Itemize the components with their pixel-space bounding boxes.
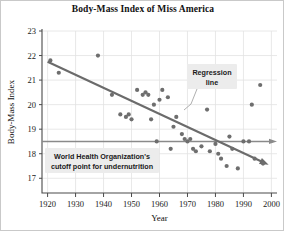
data-point: [129, 117, 133, 121]
y-tick-label: 21: [28, 75, 37, 85]
y-tick-label: 18: [28, 149, 37, 159]
data-point: [225, 164, 229, 168]
data-point: [205, 107, 209, 111]
data-point: [199, 144, 203, 148]
data-point: [213, 142, 217, 146]
y-tick-label: 17: [28, 173, 37, 183]
y-tick-label: 20: [28, 100, 37, 110]
data-point: [250, 103, 254, 107]
data-point: [230, 147, 234, 151]
regression-label-leader-line: [184, 89, 197, 110]
data-point: [180, 132, 184, 136]
regression-label-line2: line: [206, 78, 218, 87]
data-point: [118, 112, 122, 116]
data-point: [155, 139, 159, 143]
data-point: [96, 53, 100, 57]
data-point: [174, 115, 178, 119]
data-point: [127, 112, 131, 116]
data-point: [169, 147, 173, 151]
who-reference-line-arrowhead: [269, 139, 277, 144]
data-point: [166, 95, 170, 99]
data-point: [160, 88, 164, 92]
data-point: [110, 93, 114, 97]
y-axis-title: Body-Mass Index: [6, 79, 16, 144]
who-label-line1: World Health Organization's: [54, 152, 150, 161]
x-tick-label: 1950: [123, 199, 140, 209]
data-point: [247, 139, 251, 143]
x-tick-label: 1970: [179, 199, 196, 209]
x-tick-label: 1990: [235, 199, 252, 209]
x-tick-label: 2000: [263, 199, 280, 209]
data-point: [146, 93, 150, 97]
data-point: [149, 117, 153, 121]
data-point: [216, 152, 220, 156]
data-point: [194, 149, 198, 153]
y-tick-label: 19: [28, 124, 37, 134]
x-tick-label: 1940: [95, 199, 112, 209]
data-point: [48, 58, 52, 62]
data-point: [227, 134, 231, 138]
data-point: [208, 149, 212, 153]
scatter-plot: 1718192021222319201930194019501960197019…: [1, 1, 284, 231]
data-point: [253, 157, 257, 161]
who-label-line2: cutoff point for undernutrition: [51, 162, 153, 171]
x-tick-label: 1930: [67, 199, 84, 209]
data-point: [241, 139, 245, 143]
data-point: [258, 83, 262, 87]
chart-figure: Body-Mass Index of Miss America 17181920…: [0, 0, 284, 231]
data-point: [261, 161, 265, 165]
y-tick-label: 23: [28, 26, 37, 36]
data-point: [236, 166, 240, 170]
data-point: [135, 88, 139, 92]
data-point: [57, 71, 61, 75]
data-point: [188, 137, 192, 141]
x-tick-label: 1960: [151, 199, 168, 209]
regression-label-line1: Regression: [192, 68, 231, 77]
x-axis-title: Year: [151, 213, 168, 223]
data-point: [152, 103, 156, 107]
data-point: [157, 98, 161, 102]
data-point: [171, 125, 175, 129]
x-tick-label: 1980: [207, 199, 224, 209]
data-point: [219, 157, 223, 161]
y-tick-label: 22: [28, 51, 37, 61]
x-tick-label: 1920: [39, 199, 56, 209]
